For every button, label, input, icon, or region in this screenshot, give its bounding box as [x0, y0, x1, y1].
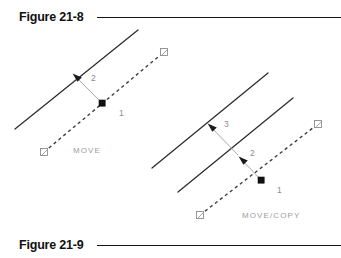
- figure-caption-bottom-label: Figure 21-9: [0, 238, 84, 252]
- move-copy-leader-3: [211, 127, 238, 155]
- move-copy-arrowhead-2: [239, 157, 248, 165]
- move-copy-label-3: 3: [224, 119, 229, 129]
- move-copy-displacement-end-marker: [315, 121, 322, 128]
- move-copy-base-point: [258, 177, 264, 183]
- move-label-1: 1: [119, 108, 124, 118]
- figure-caption-bottom: Figure 21-9: [0, 234, 341, 256]
- move-copy-diagram: 1 2 3 MOVE/COPY: [152, 73, 322, 220]
- move-copy-label-1: 1: [277, 185, 282, 195]
- move-arrowhead-2: [73, 74, 82, 82]
- move-command-label: MOVE: [73, 146, 101, 155]
- move-copy-label-2: 2: [250, 148, 255, 158]
- move-displacement-start-marker: [41, 149, 48, 156]
- figure-caption-bottom-rule: [97, 245, 341, 246]
- move-copy-displacement-line: [200, 124, 318, 215]
- move-leader-2: [76, 77, 102, 103]
- move-copy-object-line-lower: [178, 98, 293, 192]
- figure-page: Figure 21-8: [0, 0, 341, 258]
- move-copy-command-label: MOVE/COPY: [242, 211, 300, 220]
- move-label-2: 2: [91, 73, 96, 83]
- move-copy-displacement-start-marker: [197, 212, 204, 219]
- move-base-point: [99, 100, 105, 106]
- figure-artwork: 1 2 MOVE: [0, 0, 341, 258]
- move-copy-arrowhead-3: [208, 124, 217, 132]
- move-displacement-end-marker: [161, 49, 168, 56]
- move-diagram: 1 2 MOVE: [15, 30, 168, 156]
